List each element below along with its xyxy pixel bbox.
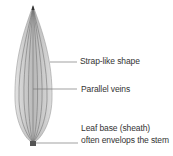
stem-sheath [30,141,36,146]
leaf-tip [32,5,35,10]
label-leaf-base: Leaf base (sheath) [81,123,150,134]
leaf-blade [15,6,52,143]
label-leaf-base-desc: often envelops the stem [81,135,169,146]
label-parallel-veins: Parallel veins [81,84,130,95]
label-strap-like-shape: Strap-like shape [80,56,140,67]
